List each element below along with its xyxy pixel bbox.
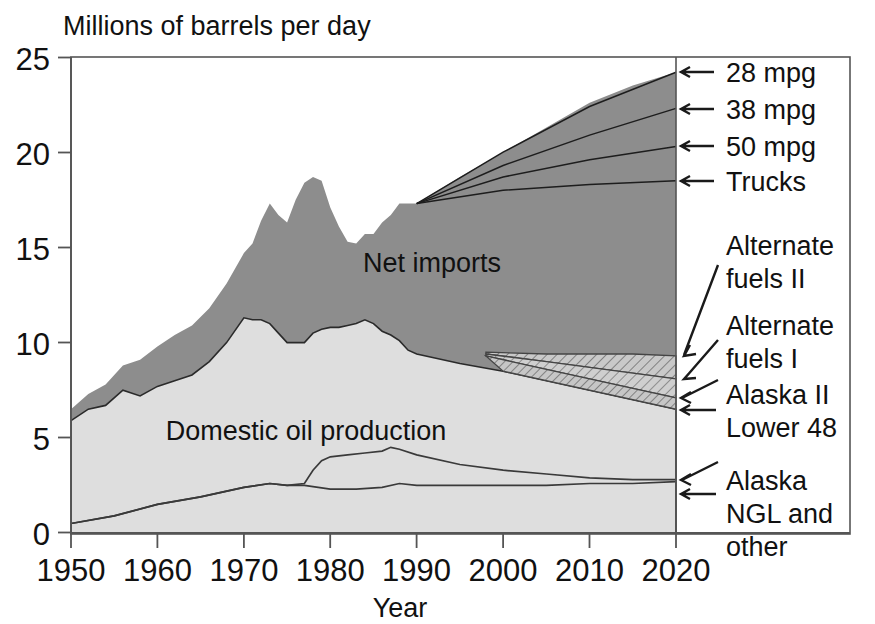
annotation-label-alternate-fuels-2-line1: Alternate bbox=[726, 231, 834, 261]
y-tick-label-20: 20 bbox=[16, 137, 50, 172]
x-tick-label-1960: 1960 bbox=[123, 553, 192, 588]
annotation-label-alternate-fuels-2-line2: fuels II bbox=[726, 264, 806, 294]
annotation-label-alternate-fuels-1-line1: Alternate bbox=[726, 311, 834, 341]
x-tick-label-2020: 2020 bbox=[642, 553, 711, 588]
y-tick-label-15: 15 bbox=[16, 232, 50, 267]
annotation-label-alaska: Alaska bbox=[726, 466, 808, 496]
area-label-net-imports: Net imports bbox=[363, 248, 501, 278]
annotation-label-50mpg: 50 mpg bbox=[726, 132, 816, 162]
x-tick-label-1980: 1980 bbox=[296, 553, 365, 588]
annotation-label-38mpg: 38 mpg bbox=[726, 95, 816, 125]
y-tick-label-0: 0 bbox=[33, 517, 50, 552]
chart-figure: 25 20 15 10 5 0 1950 1960 1970 1980 1990… bbox=[0, 0, 875, 624]
annotation-label-ngl-line2: other bbox=[726, 532, 788, 562]
x-tick-label-1990: 1990 bbox=[382, 553, 451, 588]
x-axis-title: Year bbox=[373, 593, 428, 623]
x-tick-label-1970: 1970 bbox=[209, 553, 278, 588]
annotation-label-28mpg: 28 mpg bbox=[726, 58, 816, 88]
annotation-label-lower-48: Lower 48 bbox=[726, 413, 837, 443]
x-tick-label-1950: 1950 bbox=[37, 553, 106, 588]
x-tick-label-2010: 2010 bbox=[555, 553, 624, 588]
annotation-label-trucks: Trucks bbox=[726, 167, 806, 197]
annotation-label-alaska-2: Alaska II bbox=[726, 380, 830, 410]
annotation-label-ngl-line1: NGL and bbox=[726, 499, 833, 529]
y-tick-label-10: 10 bbox=[16, 327, 50, 362]
annotation-label-alternate-fuels-1-line2: fuels I bbox=[726, 344, 798, 374]
y-tick-label-5: 5 bbox=[33, 422, 50, 457]
y-tick-label-25: 25 bbox=[16, 42, 50, 77]
area-label-domestic-production: Domestic oil production bbox=[166, 416, 447, 446]
x-tick-label-2000: 2000 bbox=[469, 553, 538, 588]
energy-area-chart: 25 20 15 10 5 0 1950 1960 1970 1980 1990… bbox=[0, 0, 875, 624]
chart-title: Millions of barrels per day bbox=[63, 11, 371, 41]
